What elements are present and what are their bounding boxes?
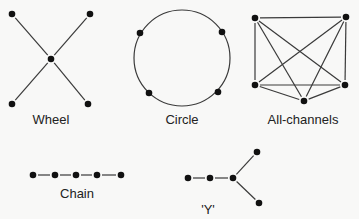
edge xyxy=(309,87,341,99)
node xyxy=(252,15,259,22)
edge xyxy=(54,63,85,100)
node xyxy=(73,172,80,179)
node xyxy=(256,200,263,207)
wheel-label: Wheel xyxy=(33,112,70,127)
node xyxy=(9,101,16,108)
wheel-network xyxy=(9,11,94,108)
all-channels-label: All-channels xyxy=(268,112,339,127)
edge xyxy=(260,17,341,18)
node xyxy=(30,172,37,179)
node xyxy=(85,101,92,108)
chain-label: Chain xyxy=(60,186,94,201)
edge xyxy=(15,18,47,55)
chain-network xyxy=(30,172,125,179)
edge xyxy=(15,63,47,100)
node xyxy=(52,172,59,179)
circle-network xyxy=(134,10,230,106)
network-diagram: Wheel Circle All-channels Chain 'Y' xyxy=(0,0,359,219)
node xyxy=(215,89,222,96)
y-network xyxy=(185,149,263,207)
node xyxy=(252,82,259,89)
node xyxy=(9,11,16,18)
edge xyxy=(54,18,86,55)
node xyxy=(185,175,192,182)
circle-label: Circle xyxy=(165,112,198,127)
node xyxy=(137,30,144,37)
edge xyxy=(260,87,299,100)
edge xyxy=(237,181,256,199)
node xyxy=(146,90,153,97)
y-label: 'Y' xyxy=(201,202,215,217)
node xyxy=(301,98,308,105)
diagram-canvas: Wheel Circle All-channels Chain 'Y' xyxy=(0,0,359,219)
node xyxy=(342,82,349,89)
node xyxy=(254,149,261,156)
node xyxy=(118,172,125,179)
node xyxy=(219,29,226,36)
node xyxy=(230,175,237,182)
all-channels-network xyxy=(252,14,350,105)
edge xyxy=(236,156,253,175)
node xyxy=(207,175,214,182)
node xyxy=(94,172,101,179)
node xyxy=(343,14,350,21)
node xyxy=(87,11,94,18)
node xyxy=(48,56,55,63)
edge xyxy=(345,22,346,80)
